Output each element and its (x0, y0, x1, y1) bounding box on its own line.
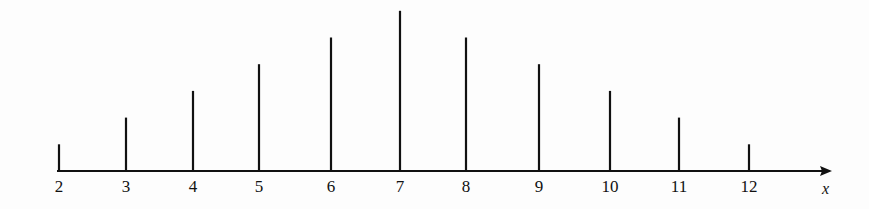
tick-label-12: 12 (741, 177, 758, 196)
tick-label-8: 8 (462, 177, 471, 196)
tick-label-3: 3 (122, 177, 131, 196)
tick-label-11: 11 (671, 177, 687, 196)
tick-label-10: 10 (602, 177, 619, 196)
tick-label-4: 4 (189, 177, 198, 196)
stems (59, 11, 749, 171)
tick-label-7: 7 (396, 177, 405, 196)
tick-labels: 23456789101112 (55, 177, 758, 196)
tick-label-9: 9 (535, 177, 544, 196)
stem-chart: 23456789101112 x (0, 0, 869, 209)
tick-label-2: 2 (55, 177, 64, 196)
tick-label-6: 6 (327, 177, 336, 196)
x-axis-label: x (821, 180, 829, 197)
tick-label-5: 5 (255, 177, 264, 196)
